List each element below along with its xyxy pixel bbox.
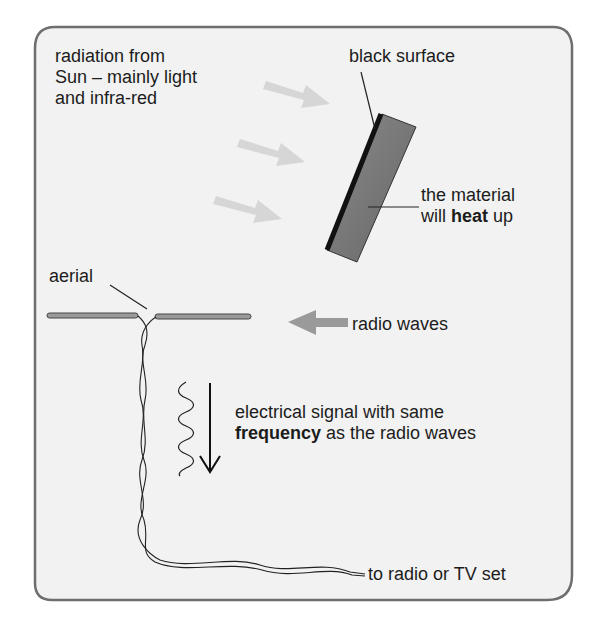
heat-label-text: will [421,206,451,226]
frequency-keyword: frequency [235,423,321,443]
signal-label: electrical signal with same frequency as… [235,402,476,444]
heat-keyword: heat [451,206,488,226]
heat-label: the material will heat up [421,185,515,227]
radio-waves-label: radio waves [352,314,448,335]
radiation-label-line: Sun – mainly light [55,67,197,88]
radiation-label: radiation from Sun – mainly light and in… [55,46,197,109]
signal-label-line: electrical signal with same [235,402,476,423]
radiation-label-line: and infra-red [55,88,197,109]
heat-label-line: the material [421,185,515,206]
radiation-label-line: radiation from [55,46,197,67]
signal-label-text: as the radio waves [321,423,476,443]
output-label: to radio or TV set [368,564,506,585]
aerial-label: aerial [49,266,93,287]
black-surface-label: black surface [349,46,455,67]
signal-label-line: frequency as the radio waves [235,423,476,444]
heat-label-line: will heat up [421,206,515,227]
heat-label-text: up [488,206,513,226]
